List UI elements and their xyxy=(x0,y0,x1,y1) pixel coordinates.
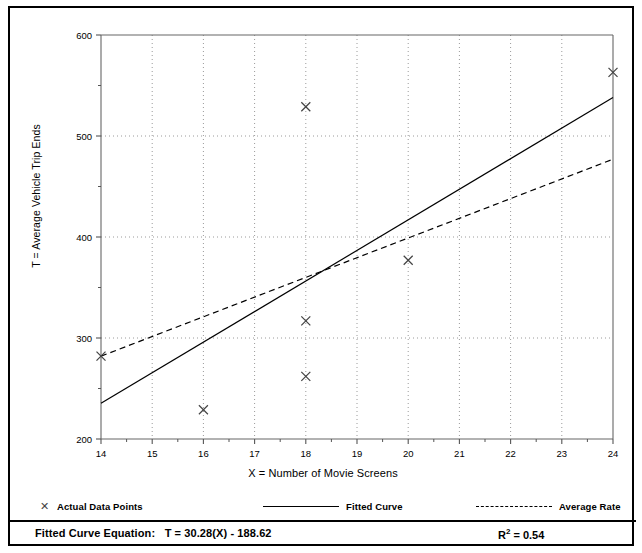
footer-row: Fitted Curve Equation: T = 30.28(X) - 18… xyxy=(10,520,636,546)
y-tick-label: 500 xyxy=(76,131,92,142)
average-rate-line xyxy=(101,159,613,356)
chart-canvas xyxy=(10,8,636,492)
equation-value: T = 30.28(X) - 188.62 xyxy=(165,527,272,539)
axis-ticks xyxy=(96,35,613,444)
x-tick-label: 22 xyxy=(505,448,516,459)
fitted-curve-equation: Fitted Curve Equation: T = 30.28(X) - 18… xyxy=(35,527,272,539)
y-tick-label: 300 xyxy=(76,333,92,344)
legend-label-actual-data-points: Actual Data Points xyxy=(57,501,143,512)
y-axis-title: T = Average Vehicle Trip Ends xyxy=(30,86,42,306)
x-tick-label: 21 xyxy=(454,448,465,459)
x-tick-label: 23 xyxy=(557,448,568,459)
x-tick-label: 20 xyxy=(403,448,414,459)
x-tick-label: 15 xyxy=(147,448,158,459)
legend-item-fitted-curve: Fitted Curve xyxy=(263,492,403,520)
x-tick-label: 19 xyxy=(352,448,363,459)
x-tick-label: 14 xyxy=(96,448,107,459)
x-tick-label: 24 xyxy=(608,448,619,459)
legend-item-average-rate: Average Rate xyxy=(476,492,621,520)
legend-item-actual-data-points: ✕ Actual Data Points xyxy=(38,492,143,520)
equation-label: Fitted Curve Equation: xyxy=(35,527,155,539)
chart-legend: ✕ Actual Data Points Fitted Curve Averag… xyxy=(10,492,636,520)
r-squared-symbol: R xyxy=(498,529,506,541)
x-tick-label: 16 xyxy=(198,448,209,459)
solid-line-icon xyxy=(263,500,339,512)
r-squared-statistic: R2 = 0.54 xyxy=(498,527,544,541)
x-axis-title: X = Number of Movie Screens xyxy=(10,467,636,479)
x-tick-label: 17 xyxy=(249,448,260,459)
data-point-marker xyxy=(199,405,208,414)
y-tick-label: 400 xyxy=(76,232,92,243)
x-tick-label: 18 xyxy=(301,448,312,459)
y-tick-label: 200 xyxy=(76,434,92,445)
plot-region: 200300400500600 1415161718192021222324 T… xyxy=(10,8,636,492)
x-marker-icon: ✕ xyxy=(38,500,50,512)
y-tick-label: 600 xyxy=(76,30,92,41)
legend-label-fitted-curve: Fitted Curve xyxy=(346,501,403,512)
r-squared-exponent: 2 xyxy=(506,527,510,536)
r-squared-value: = 0.54 xyxy=(513,529,544,541)
legend-label-average-rate: Average Rate xyxy=(559,501,621,512)
chart-figure: 200300400500600 1415161718192021222324 T… xyxy=(8,6,634,546)
dashed-line-icon xyxy=(476,500,552,512)
